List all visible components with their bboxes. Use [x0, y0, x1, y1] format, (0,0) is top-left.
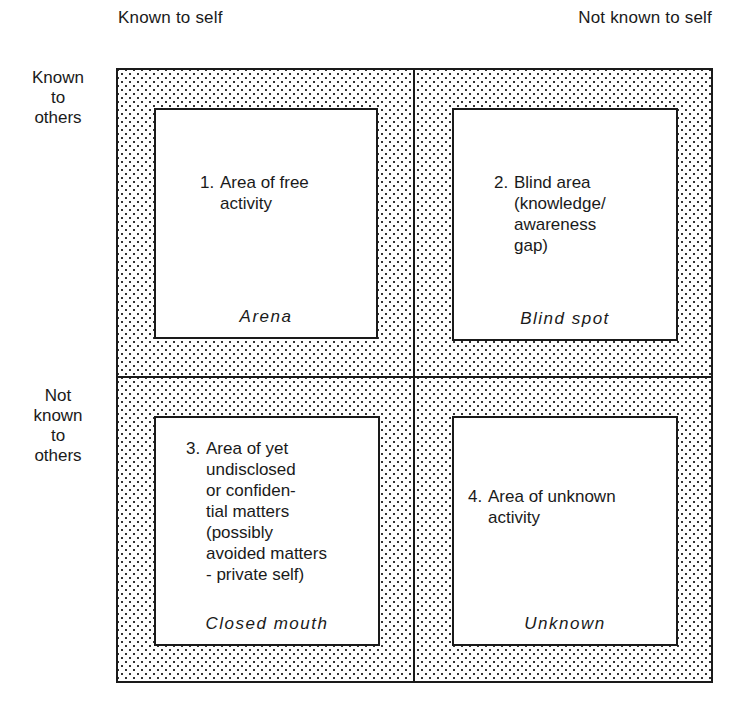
- quadrant-name: Arena: [156, 307, 376, 327]
- quadrant-number: 3.: [186, 438, 206, 459]
- quadrant-number: 2.: [494, 172, 514, 193]
- quadrant-description: 1.Area of free activity: [200, 172, 309, 214]
- horizontal-divider: [118, 376, 711, 378]
- row-label-line: others: [8, 108, 108, 128]
- quadrant-unknown: 4.Area of unknown activity Unknown: [452, 416, 678, 646]
- quadrant-number: 4.: [468, 486, 488, 507]
- row-label-line: others: [8, 446, 108, 466]
- row-label-line: to: [8, 426, 108, 446]
- row-label-not-known-to-others: Not known to others: [8, 386, 108, 466]
- description-line: avoided matters: [186, 543, 327, 564]
- quadrant-closed-mouth: 3.Area of yet undisclosed or confiden- t…: [154, 416, 380, 646]
- description-line: (possibly: [186, 522, 327, 543]
- row-label-line: Not: [8, 386, 108, 406]
- quadrant-description: 3.Area of yet undisclosed or confiden- t…: [186, 438, 327, 585]
- description-line: Area of yet: [206, 439, 288, 458]
- row-label-line: Known: [8, 68, 108, 88]
- description-line: gap): [494, 235, 606, 256]
- description-line: activity: [468, 507, 616, 528]
- description-line: Area of unknown: [488, 487, 616, 506]
- row-label-known-to-others: Known to others: [8, 68, 108, 128]
- description-line: - private self): [186, 564, 327, 585]
- description-line: tial matters: [186, 501, 327, 522]
- row-label-line: to: [8, 88, 108, 108]
- quadrant-arena: 1.Area of free activity Arena: [154, 108, 378, 339]
- description-line: or confiden-: [186, 480, 327, 501]
- quadrant-description: 2.Blind area (knowledge/ awareness gap): [494, 172, 606, 256]
- row-label-line: known: [8, 406, 108, 426]
- description-line: Blind area: [514, 173, 591, 192]
- quadrant-name: Blind spot: [454, 309, 676, 329]
- quadrant-name: Closed mouth: [156, 614, 378, 634]
- description-line: activity: [200, 193, 309, 214]
- description-line: awareness: [494, 214, 606, 235]
- column-label-not-known-to-self: Not known to self: [578, 8, 712, 28]
- description-line: (knowledge/: [494, 193, 606, 214]
- column-label-known-to-self: Known to self: [118, 8, 223, 28]
- quadrant-blind-spot: 2.Blind area (knowledge/ awareness gap) …: [452, 108, 678, 341]
- quadrant-description: 4.Area of unknown activity: [468, 486, 616, 528]
- quadrant-name: Unknown: [454, 614, 676, 634]
- description-line: undisclosed: [186, 459, 327, 480]
- quadrant-number: 1.: [200, 172, 220, 193]
- johari-window-grid: 1.Area of free activity Arena 2.Blind ar…: [116, 68, 713, 683]
- description-line: Area of free: [220, 173, 309, 192]
